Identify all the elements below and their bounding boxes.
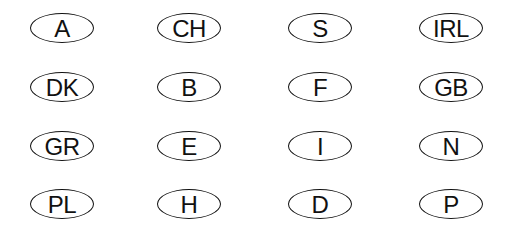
country-code: I [317,135,323,159]
country-code: PL [48,193,76,217]
country-badge-s: S [288,13,352,43]
country-badge-i: I [288,131,352,161]
country-badge-f: F [288,72,352,102]
country-code: N [443,135,460,159]
country-code-grid: A CH S IRL DK B F GB GR E I N PL H D P [0,0,508,238]
country-code: D [312,193,329,217]
country-code: DK [46,76,78,100]
country-code: H [181,193,198,217]
country-badge-irl: IRL [419,13,483,43]
country-badge-b: B [157,72,221,102]
country-badge-n: N [419,131,483,161]
country-code: GB [434,76,468,100]
country-badge-ch: CH [157,13,221,43]
country-badge-a: A [30,13,94,43]
country-code: A [54,17,70,41]
country-badge-gr: GR [30,131,94,161]
country-code: P [443,193,459,217]
country-code: E [181,135,197,159]
country-code: F [313,76,327,100]
country-badge-dk: DK [30,72,94,102]
country-code: GR [45,135,80,159]
country-badge-h: H [157,189,221,219]
country-badge-gb: GB [419,72,483,102]
country-code: IRL [433,17,469,41]
country-badge-d: D [288,189,352,219]
country-code: S [312,17,328,41]
country-code: B [181,76,197,100]
country-code: CH [172,17,206,41]
country-badge-pl: PL [30,189,94,219]
country-badge-p: P [419,189,483,219]
country-badge-e: E [157,131,221,161]
